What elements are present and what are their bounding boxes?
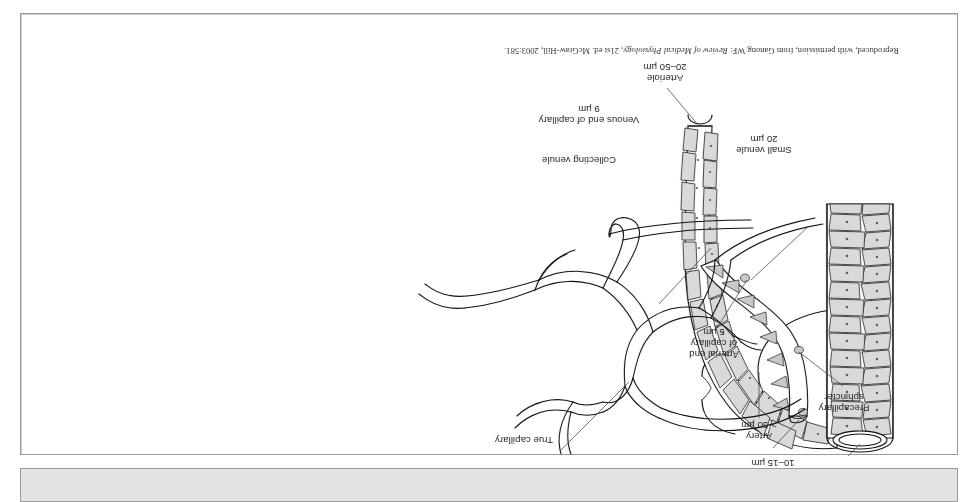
label-arteriole-size: 20–50 µm [623,62,707,73]
label-small-venule-size: 20 µm [719,134,809,145]
illustration-stage: Reproduced, with permission, from Ganong… [21,14,959,456]
label-arterial-end-size: 5 µm [675,327,753,338]
microcirculation-drawing [21,14,959,456]
label-small-venule: Small venule 20 µm [719,134,809,156]
label-true-capillary-name: True capillary [479,435,569,446]
figure-panel: Reproduced, with permission, from Ganong… [20,13,958,455]
leader-true-capillary [561,382,629,450]
label-collecting-venule-name: Collecting venule [529,155,629,166]
label-arterial-end-line1: Arterial end [675,349,753,360]
label-small-venule-name: Small venule [719,145,809,156]
label-true-capillary: True capillary [479,435,569,446]
figure-credit: Reproduced, with permission, from Ganong… [504,46,899,56]
credit-prefix: Reproduced, with permission, from Ganong… [728,46,899,56]
label-arterial-end-line2: of capillary [675,338,753,349]
label-venous-end: Venous end of capillary 9 µm [519,104,659,126]
label-venous-end-name: Venous end of capillary [519,115,659,126]
credit-suffix: , 21st ed. McGraw-Hill, 2003:581. [504,46,623,56]
bottom-gray-bar [20,468,958,502]
label-arteriole: Arteriole 20–50 µm [623,62,707,84]
small-venule-vessel [827,204,893,452]
label-artery-size: > 50 µm [723,420,795,431]
label-arteriole-name: Arteriole [623,73,707,84]
label-collecting-venule: Collecting venule [529,155,629,166]
label-venous-end-size: 9 µm [519,104,659,115]
leader-arteriole [667,88,699,126]
label-precap-line2: sphincter [803,392,885,403]
label-precap-line1: Precapillary [803,403,885,414]
label-artery: Artery > 50 µm [723,420,795,442]
credit-work-title: Review of Medical Physiology [623,46,728,56]
label-precapillary-sphincter: Precapillary sphincter [803,392,885,414]
label-arterial-end: Arterial end of capillary 5 µm [675,327,753,360]
label-artery-name: Artery [723,431,795,442]
